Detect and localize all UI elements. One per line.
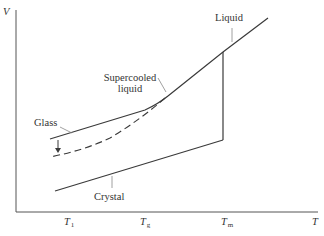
glass-leader [60, 127, 72, 133]
annealed-glass-dashed-curve [50, 98, 165, 157]
supercooled-label-line2: liquid [94, 83, 166, 94]
y-axis-label: V [3, 6, 9, 17]
supercooled-liquid-curve [50, 96, 168, 139]
crystal-label: Crystal [94, 191, 124, 202]
tick-label-tm: Tm [221, 216, 233, 231]
x-axis-label: T [312, 216, 318, 227]
liquid-label: Liquid [215, 12, 243, 23]
crystal-line [55, 140, 223, 191]
tick-main: T [140, 216, 146, 227]
tick-main: T [64, 216, 70, 227]
tick-label-tg: Tg [140, 216, 150, 231]
supercooled-label-line1: Supercooled [94, 72, 166, 83]
tick-label-t1: T1 [64, 216, 74, 231]
tick-sub: m [228, 221, 233, 229]
supercooled-label: Supercooled liquid [94, 72, 166, 94]
relaxation-arrow-head [55, 148, 61, 153]
liquid-curve [168, 18, 268, 96]
tick-sub: g [147, 221, 151, 229]
glass-label: Glass [34, 117, 57, 128]
tick-main: T [221, 216, 227, 227]
tick-sub: 1 [71, 221, 75, 229]
